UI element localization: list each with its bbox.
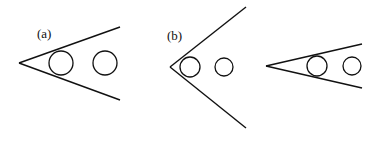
wedge-b-lower-line: [170, 67, 246, 128]
wedge-c-circle-1: [307, 56, 327, 76]
wedge-b-circle-1: [180, 57, 200, 77]
wedge-a-upper-line: [19, 27, 120, 63]
panel-a-label: (a): [37, 26, 51, 41]
panel-b-narrow-wedge: [266, 44, 362, 88]
wedge-b-circle-2: [215, 58, 233, 76]
wedge-diagram: (a) (b): [0, 0, 381, 141]
panel-b: (b): [167, 7, 246, 128]
wedge-c-lower-line: [266, 66, 362, 88]
wedge-a-circle-1: [49, 51, 73, 75]
wedge-a-circle-2: [93, 51, 117, 75]
panel-b-label: (b): [167, 28, 182, 43]
wedge-c-upper-line: [266, 44, 362, 66]
wedge-c-circle-2: [343, 57, 361, 75]
panel-a: (a): [19, 26, 120, 100]
wedge-a-lower-line: [19, 63, 120, 100]
